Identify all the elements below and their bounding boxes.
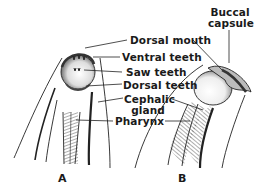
label-buccal-capsule-line2: capsule [208, 18, 252, 29]
label-saw-teeth: Saw teeth [126, 67, 187, 78]
label-buccal-capsule: Buccal capsule [208, 7, 252, 29]
worm-a [14, 55, 110, 168]
label-dorsal-mouth: Dorsal mouth [130, 35, 211, 46]
label-dorsal-teeth: Dorsal teeth [123, 80, 198, 91]
panel-label-a: A [58, 172, 67, 185]
label-pharynx: Pharynx [115, 116, 164, 127]
label-cephalic-gland: Cephalic gland [124, 94, 172, 116]
hookworm-diagram: Dorsal mouth Ventral teeth Saw teeth Dor… [0, 0, 262, 194]
panel-label-b: B [178, 172, 186, 185]
label-ventral-teeth: Ventral teeth [122, 52, 202, 63]
